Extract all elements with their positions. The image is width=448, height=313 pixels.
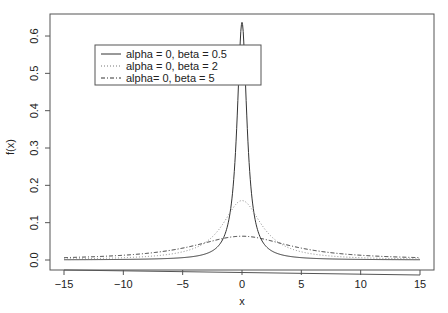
y-tick-label: 0.0 — [28, 252, 40, 267]
y-tick-label: 0.5 — [28, 66, 40, 81]
x-axis-label: x — [239, 295, 245, 307]
series-line-1 — [64, 201, 420, 259]
series-line-2 — [64, 236, 420, 257]
x-tick-label: 10 — [355, 278, 367, 290]
y-axis: 0.00.10.20.30.40.50.6 — [28, 28, 50, 267]
y-tick-label: 0.2 — [28, 178, 40, 193]
y-axis-label: f(x) — [4, 139, 16, 155]
legend-label-1: alpha = 0, beta = 2 — [126, 60, 218, 72]
y-tick-label: 0.1 — [28, 215, 40, 230]
x-tick-label: −10 — [114, 278, 133, 290]
x-tick-label: −15 — [55, 278, 74, 290]
x-tick-label: 15 — [414, 278, 426, 290]
x-tick-label: 0 — [239, 278, 245, 290]
legend-label-2: alpha= 0, beta = 5 — [126, 72, 215, 84]
legend: alpha = 0, beta = 0.5 alpha = 0, beta = … — [95, 45, 261, 85]
y-tick-label: 0.4 — [28, 103, 40, 118]
x-axis: −15−10−5051015 — [55, 270, 426, 290]
x-tick-label: 5 — [298, 278, 304, 290]
cauchy-density-chart: −15−10−5051015 0.00.10.20.30.40.50.6 x f… — [0, 0, 448, 313]
x-tick-label: −5 — [176, 278, 189, 290]
y-tick-label: 0.3 — [28, 140, 40, 155]
y-tick-label: 0.6 — [28, 28, 40, 43]
legend-label-0: alpha = 0, beta = 0.5 — [126, 48, 227, 60]
